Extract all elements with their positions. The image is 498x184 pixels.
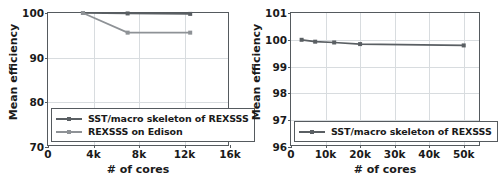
- legend-label: SST/macro skeleton of REXSSS: [331, 126, 492, 137]
- y-tick-label: 99: [272, 61, 287, 73]
- x-tick-label: 0: [287, 148, 294, 160]
- data-series: [300, 38, 466, 48]
- series-marker: [188, 12, 192, 16]
- y-tick-label: 101: [265, 7, 287, 19]
- x-tick-label: 0: [44, 148, 51, 160]
- y-tick-label: 100: [265, 34, 287, 46]
- y-tick-mark: [45, 147, 48, 148]
- series-marker: [358, 42, 362, 46]
- x-tick-label: 10k: [315, 148, 337, 160]
- series-marker: [188, 31, 192, 35]
- x-tick-label: 16k: [219, 148, 241, 160]
- x-tick-label: 12k: [174, 148, 196, 160]
- plot-area-left: 04k8k12k16k708090100SST/macro skeleton o…: [47, 12, 229, 146]
- series-marker: [126, 11, 130, 15]
- x-tick-label: 30k: [384, 148, 406, 160]
- series-marker: [332, 40, 336, 44]
- legend-label: REXSSS on Edison: [88, 126, 183, 137]
- y-tick-mark: [288, 147, 291, 148]
- chart-legend: SST/macro skeleton of REXSSSREXSSS on Ed…: [51, 108, 255, 142]
- y-axis-label: Mean efficiency: [250, 17, 263, 127]
- x-tick-label: 40k: [418, 148, 440, 160]
- legend-item[interactable]: SST/macro skeleton of REXSSS: [299, 125, 492, 138]
- legend-line-swatch: [299, 126, 325, 137]
- series-marker: [313, 40, 317, 44]
- series-line: [302, 40, 464, 46]
- x-axis-label: # of cores: [290, 163, 480, 176]
- x-tick-label: 50k: [453, 148, 475, 160]
- x-tick-label: 4k: [86, 148, 100, 160]
- data-series: [81, 11, 192, 16]
- chart-panel-left: Mean efficiency 04k8k12k16k708090100SST/…: [0, 0, 243, 184]
- y-tick-label: 96: [272, 141, 287, 153]
- legend-item[interactable]: REXSSS on Edison: [56, 125, 249, 138]
- y-tick-label: 90: [29, 52, 44, 64]
- y-tick-label: 70: [29, 141, 44, 153]
- chart-legend: SST/macro skeleton of REXSSS: [294, 121, 498, 142]
- legend-line-swatch: [56, 126, 82, 137]
- series-line: [83, 13, 190, 33]
- y-tick-label: 97: [272, 114, 287, 126]
- x-axis-label: # of cores: [47, 163, 229, 176]
- plot-area-right: 010k20k30k40k50k96979899100101SST/macro …: [290, 12, 480, 146]
- series-line: [83, 13, 190, 14]
- series-marker: [300, 38, 304, 42]
- legend-item[interactable]: SST/macro skeleton of REXSSS: [56, 112, 249, 125]
- y-tick-label: 98: [272, 87, 287, 99]
- y-axis-label: Mean efficiency: [7, 17, 20, 127]
- series-marker: [81, 11, 85, 15]
- legend-label: SST/macro skeleton of REXSSS: [88, 113, 249, 124]
- x-tick-label: 8k: [132, 148, 146, 160]
- y-tick-label: 100: [22, 7, 44, 19]
- series-marker: [462, 43, 466, 47]
- x-tick-label: 20k: [349, 148, 371, 160]
- chart-panel-right: Mean efficiency 010k20k30k40k50k96979899…: [243, 0, 486, 184]
- y-tick-label: 80: [29, 96, 44, 108]
- legend-line-swatch: [56, 113, 82, 124]
- series-marker: [126, 31, 130, 35]
